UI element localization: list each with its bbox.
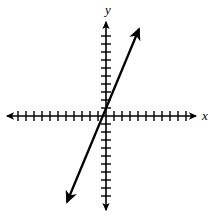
y-axis-label: y	[103, 2, 111, 17]
graph-canvas: y x	[0, 0, 217, 216]
coordinate-plane-figure: y x	[0, 0, 217, 216]
x-axis-label: x	[201, 108, 208, 123]
